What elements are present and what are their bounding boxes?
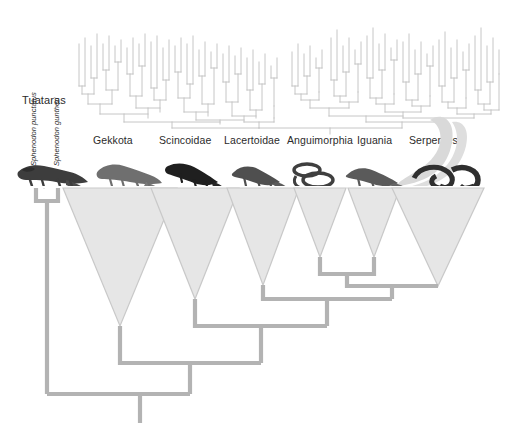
- triangle-anguimorphia: [294, 188, 346, 257]
- branch-anguimorphia-iguania: [320, 257, 374, 274]
- summary-cladogram: [0, 0, 505, 431]
- triangle-lacertoidae: [227, 188, 299, 285]
- phylogeny-figure: Tuataras Sphenodon punctatus Sphenodon g…: [0, 0, 505, 431]
- branch-scincoidae-node: [195, 299, 327, 326]
- branch-squamata-node: [120, 326, 261, 363]
- triangle-scincoidae: [151, 188, 239, 299]
- triangle-iguania: [348, 188, 400, 257]
- anguid-silhouette: [294, 164, 333, 188]
- branch-tuatara-pair: [36, 188, 58, 201]
- triangle-serpentes: [392, 188, 484, 286]
- clade-triangles: [63, 188, 484, 326]
